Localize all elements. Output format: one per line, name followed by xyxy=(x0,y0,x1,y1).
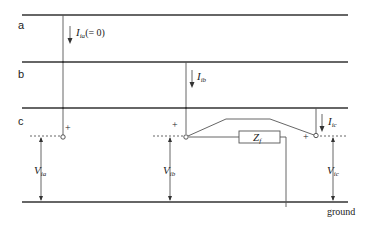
arrowhead-va-bot xyxy=(39,196,43,201)
junction-c-a xyxy=(62,107,64,109)
polarity-mark-c: + xyxy=(303,131,309,142)
ground-label: ground xyxy=(327,206,355,217)
terminal-c xyxy=(314,133,318,137)
bus-label-a: a xyxy=(18,19,25,31)
voltage-label-b: Vib xyxy=(163,164,176,178)
fault-circuit-diagram: a b c Iia(= 0) Iib Iic Via Vib Vic Zf + … xyxy=(0,0,372,228)
arrowhead-ib xyxy=(190,82,195,88)
arrowhead-ia xyxy=(68,38,73,44)
voltage-label-a: Via xyxy=(34,164,47,178)
bus-label-c: c xyxy=(18,115,24,127)
voltage-label-c: Vic xyxy=(327,164,340,178)
current-label-a: Iia(= 0) xyxy=(75,26,105,40)
terminal-a xyxy=(61,135,65,139)
arrowhead-ic xyxy=(320,126,325,132)
arrowhead-vc-top xyxy=(331,137,335,142)
polarity-mark-a: + xyxy=(65,122,71,133)
polarity-mark-b: + xyxy=(172,119,178,130)
wire-zf-to-ground xyxy=(280,137,286,207)
arrowhead-vc-bot xyxy=(331,196,335,201)
current-label-b: Iib xyxy=(196,70,207,84)
junction-b-a xyxy=(62,61,64,63)
arrowhead-vb-bot xyxy=(168,196,172,201)
terminal-b xyxy=(184,135,188,139)
bus-label-b: b xyxy=(18,68,24,80)
current-label-c: Iic xyxy=(327,115,338,129)
arrowhead-va-top xyxy=(39,137,43,142)
arrowhead-vb-top xyxy=(168,137,172,142)
junction-c-b xyxy=(185,107,187,109)
